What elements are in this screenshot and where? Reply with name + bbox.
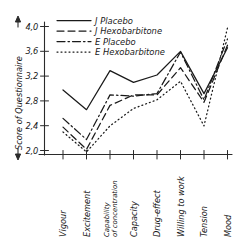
legend-label-e-placebo: E Placebo	[95, 37, 136, 47]
x-label-vigour: Vigour	[58, 210, 68, 237]
y-axis-title: Score of Questionnaire	[14, 56, 24, 150]
legend-label-j-hexobarbitone: J Hexobarbitone	[93, 26, 162, 36]
x-label-willing-to-work: Willing to work	[176, 175, 186, 237]
x-label-mood: Mood	[223, 214, 233, 237]
x-label-excitement: Excitement	[82, 190, 92, 237]
legend-label-j-placebo: J Placebo	[93, 16, 133, 26]
x-label-capability-of-concentration-line2: of concentration	[111, 180, 119, 237]
y-tick-label-4-0: 4,0	[25, 22, 38, 32]
series-path-j-placebo	[63, 48, 228, 110]
x-label-tension: Tension	[199, 206, 209, 237]
y-tick-label-2-4: 2,4	[25, 121, 38, 131]
x-label-drug-effect: Drug-effect	[152, 190, 162, 237]
chart-legend: J Placebo J Hexobarbitone E Placebo E He…	[57, 16, 165, 58]
y-tick-label-2-8: 2,8	[25, 96, 38, 106]
y-tick-label-3-2: 3,2	[25, 71, 38, 81]
y-axis-arrow-up	[15, 16, 20, 27]
x-label-capacity: Capacity	[129, 201, 139, 237]
y-tick-label-2-0: 2,0	[25, 146, 38, 156]
legend-label-e-hexobarbitone: E Hexobarbitone	[95, 47, 165, 57]
y-tick-label-3-6: 3,6	[25, 46, 38, 56]
line-chart: Score of Questionnaire 4,0 3,6 3,2 2,8 2…	[0, 0, 240, 243]
chart-figure: Score of Questionnaire 4,0 3,6 3,2 2,8 2…	[0, 0, 240, 243]
